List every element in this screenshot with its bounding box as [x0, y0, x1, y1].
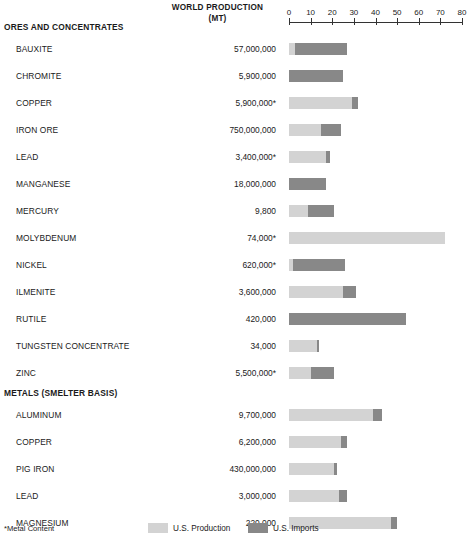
- row-label: TUNGSTEN CONCENTRATE: [16, 341, 130, 351]
- bar-segment-production: [289, 436, 341, 448]
- row-bar: [289, 367, 334, 379]
- row-bar: [289, 97, 358, 109]
- production-imports-chart: WORLD PRODUCTION (MT) 01020304050607080 …: [0, 0, 470, 540]
- row-value: 3,400,000*: [150, 152, 276, 162]
- bar-segment-production: [289, 124, 321, 136]
- bar-segment-production: [289, 490, 339, 502]
- row-value: 5,900,000: [150, 71, 276, 81]
- x-axis-tick: [440, 18, 441, 25]
- bar-segment-imports: [373, 409, 382, 421]
- row-value: 18,000,000: [150, 179, 276, 189]
- x-axis-tick-label: 30: [349, 8, 358, 17]
- row-label: IRON ORE: [16, 125, 58, 135]
- chart-row: BAUXITE57,000,000: [0, 43, 470, 57]
- x-axis-tick: [289, 18, 290, 25]
- row-value: 6,200,000: [150, 437, 276, 447]
- chart-row: MANGANESE18,000,000: [0, 178, 470, 192]
- row-bar: [289, 313, 406, 325]
- bar-segment-production: [289, 151, 326, 163]
- footnote: *Metal Content: [4, 524, 54, 533]
- value-column-header-line2: (MT): [150, 13, 285, 24]
- chart-row: PIG IRON430,000,000: [0, 463, 470, 477]
- row-value: 9,700,000: [150, 410, 276, 420]
- row-label: ILMENITE: [16, 287, 55, 297]
- row-value: 5,900,000*: [150, 98, 276, 108]
- legend-swatch-production: [148, 523, 168, 533]
- row-value: 430,000,000: [150, 464, 276, 474]
- chart-row: RUTILE420,000: [0, 313, 470, 327]
- row-value: 3,600,000: [150, 287, 276, 297]
- bar-segment-imports: [326, 151, 330, 163]
- row-bar: [289, 409, 382, 421]
- bar-segment-imports: [289, 313, 406, 325]
- chart-row: MERCURY9,800: [0, 205, 470, 219]
- x-axis-tick-label: 60: [414, 8, 423, 17]
- x-axis-tick-label: 50: [393, 8, 402, 17]
- bar-segment-production: [289, 409, 373, 421]
- row-value: 74,000*: [150, 233, 276, 243]
- section-heading: METALS (SMELTER BASIS): [4, 388, 117, 398]
- row-value: 5,500,000*: [150, 368, 276, 378]
- row-bar: [289, 151, 330, 163]
- bar-segment-imports: [352, 97, 358, 109]
- row-bar: [289, 463, 337, 475]
- x-axis-tick-label: 70: [436, 8, 445, 17]
- chart-row: NICKEL620,000*: [0, 259, 470, 273]
- bar-segment-production: [289, 367, 311, 379]
- row-label: MOLYBDENUM: [16, 233, 76, 243]
- row-bar: [289, 70, 343, 82]
- value-column-header: WORLD PRODUCTION (MT): [150, 2, 285, 24]
- row-bar: [289, 286, 356, 298]
- row-value: 750,000,000: [150, 125, 276, 135]
- row-bar: [289, 340, 319, 352]
- bar-segment-imports: [334, 463, 336, 475]
- value-column-header-line1: WORLD PRODUCTION: [150, 2, 285, 13]
- row-bar: [289, 43, 347, 55]
- x-axis-tick: [397, 18, 398, 25]
- row-value: 3,000,000: [150, 491, 276, 501]
- legend-label-imports: U.S. Imports: [273, 524, 319, 533]
- chart-row: IRON ORE750,000,000: [0, 124, 470, 138]
- bar-segment-production: [289, 463, 334, 475]
- bar-segment-imports: [341, 436, 347, 448]
- legend-label-production: U.S. Production: [173, 524, 230, 533]
- row-label: RUTILE: [16, 314, 46, 324]
- row-bar: [289, 490, 347, 502]
- x-axis-tick-label: 80: [458, 8, 467, 17]
- row-value: 34,000: [150, 341, 276, 351]
- row-label: ALUMINUM: [16, 410, 61, 420]
- chart-row: TUNGSTEN CONCENTRATE34,000: [0, 340, 470, 354]
- bar-segment-imports: [311, 367, 335, 379]
- row-bar: [289, 178, 326, 190]
- x-axis-tick: [419, 18, 420, 25]
- bar-segment-imports: [295, 43, 347, 55]
- x-axis-tick-label: 40: [371, 8, 380, 17]
- x-axis: 01020304050607080: [289, 8, 465, 30]
- row-label: PIG IRON: [16, 464, 55, 474]
- row-label: CHROMITE: [16, 71, 61, 81]
- chart-row: ILMENITE3,600,000: [0, 286, 470, 300]
- chart-legend: *Metal Content U.S. Production U.S. Impo…: [0, 522, 470, 536]
- bar-segment-production: [289, 232, 445, 244]
- row-label: COPPER: [16, 98, 52, 108]
- legend-swatch-imports: [248, 523, 268, 533]
- bar-segment-production: [289, 286, 343, 298]
- bar-segment-production: [289, 97, 352, 109]
- row-bar: [289, 436, 347, 448]
- bar-segment-imports: [308, 205, 334, 217]
- chart-row: MOLYBDENUM74,000*: [0, 232, 470, 246]
- chart-row: ZINC5,500,000*: [0, 367, 470, 381]
- x-axis-tick-label: 10: [306, 8, 315, 17]
- row-label: NICKEL: [16, 260, 47, 270]
- row-label: MERCURY: [16, 206, 59, 216]
- row-label: LEAD: [16, 491, 38, 501]
- bar-segment-imports: [339, 490, 348, 502]
- bar-segment-imports: [317, 340, 319, 352]
- bar-segment-production: [289, 340, 317, 352]
- bar-segment-imports: [321, 124, 340, 136]
- chart-row: LEAD3,000,000: [0, 490, 470, 504]
- x-axis-tick: [354, 18, 355, 25]
- bar-segment-production: [289, 205, 308, 217]
- row-bar: [289, 124, 341, 136]
- x-axis-tick-label: 0: [287, 8, 291, 17]
